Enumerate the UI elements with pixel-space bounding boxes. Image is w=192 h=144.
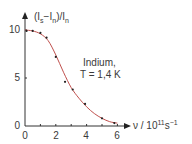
data-point — [25, 30, 27, 32]
y-tick-label-5: 5 — [4, 73, 20, 83]
y-axis-label: (Is−In)/In — [34, 12, 69, 24]
x-tick-label-6: 6 — [114, 131, 120, 141]
x-axis-label: ν / 1011s−1 — [133, 119, 178, 131]
y-tick-label-10: 10 — [4, 25, 20, 35]
chart-annotation: Indium, T = 1,4 K — [80, 57, 121, 81]
annotation-material: Indium, — [80, 57, 121, 69]
x-tick-label-0: 0 — [22, 131, 28, 141]
x-axis-arrow — [124, 123, 131, 129]
data-point — [39, 32, 41, 34]
data-point — [72, 88, 74, 90]
data-point — [64, 81, 66, 83]
y-axis-arrow — [22, 12, 28, 19]
x-tick-label-2: 2 — [53, 131, 59, 141]
data-point — [101, 117, 103, 119]
data-point — [55, 56, 57, 58]
data-point — [32, 30, 34, 32]
data-point — [84, 103, 86, 105]
annotation-temperature: T = 1,4 K — [80, 69, 121, 81]
x-tick-label-4: 4 — [83, 131, 89, 141]
y-tick-label-0: 0 — [4, 121, 20, 131]
data-point — [45, 37, 47, 39]
data-point — [113, 122, 115, 124]
